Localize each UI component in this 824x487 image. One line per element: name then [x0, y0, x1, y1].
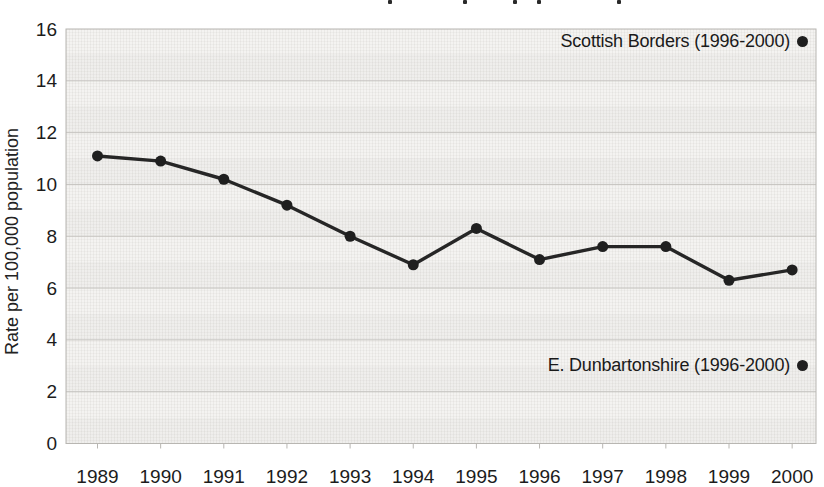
data-point-1990: [155, 156, 166, 167]
annotation-e-dunbartonshire-dot-icon: [797, 360, 808, 371]
y-tick-label-2: 2: [46, 381, 57, 402]
x-tick-label-2000: 2000: [771, 466, 813, 487]
y-tick-label-14: 14: [36, 70, 58, 91]
x-tick-label-1993: 1993: [329, 466, 371, 487]
data-point-1995: [471, 223, 482, 234]
annotation-scottish-borders: Scottish Borders (1996-2000): [560, 31, 808, 53]
y-tick-label-0: 0: [46, 433, 57, 454]
x-tick-label-1990: 1990: [140, 466, 182, 487]
x-tick-label-1995: 1995: [455, 466, 497, 487]
data-point-1996: [534, 254, 545, 265]
data-point-1999: [724, 275, 735, 286]
data-point-1991: [218, 174, 229, 185]
data-line: [98, 156, 793, 280]
data-point-1994: [408, 259, 419, 270]
x-tick-label-1999: 1999: [708, 466, 750, 487]
x-tick-label-1991: 1991: [203, 466, 245, 487]
y-tick-label-10: 10: [36, 174, 57, 195]
data-point-1989: [92, 150, 103, 161]
x-tick-label-1994: 1994: [392, 466, 435, 487]
chart-screenshot: 0246810121416198919901991199219931994199…: [0, 0, 824, 487]
data-point-1997: [597, 241, 608, 252]
y-axis-title: Rate per 100,000 population: [2, 117, 23, 367]
x-tick-label-1998: 1998: [645, 466, 687, 487]
annotation-e-dunbartonshire-label: E. Dunbartonshire (1996-2000): [548, 355, 790, 376]
data-point-1992: [281, 200, 292, 211]
y-tick-label-16: 16: [36, 19, 57, 40]
x-tick-label-1989: 1989: [76, 466, 118, 487]
annotation-e-dunbartonshire: E. Dunbartonshire (1996-2000): [548, 355, 808, 377]
y-tick-label-8: 8: [46, 226, 57, 247]
x-tick-label-1997: 1997: [582, 466, 624, 487]
annotation-scottish-borders-dot-icon: [797, 36, 808, 47]
y-tick-label-12: 12: [36, 122, 57, 143]
line-chart-svg: 0246810121416198919901991199219931994199…: [0, 0, 824, 487]
data-point-1993: [345, 231, 356, 242]
x-tick-label-1992: 1992: [266, 466, 308, 487]
data-point-1998: [660, 241, 671, 252]
y-tick-label-6: 6: [46, 278, 57, 299]
data-point-2000: [787, 264, 798, 275]
annotation-scottish-borders-label: Scottish Borders (1996-2000): [560, 31, 790, 52]
x-tick-label-1996: 1996: [518, 466, 560, 487]
y-tick-label-4: 4: [46, 329, 57, 350]
